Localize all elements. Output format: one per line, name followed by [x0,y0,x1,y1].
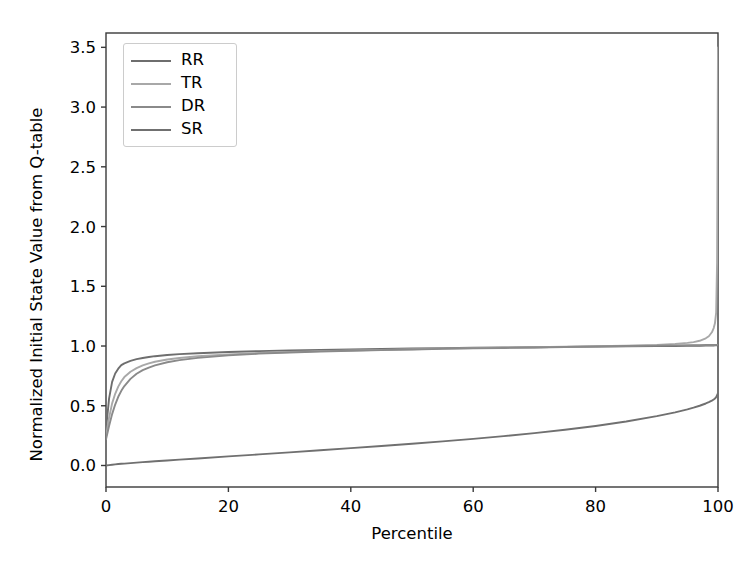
legend-label: TR [181,75,203,92]
legend-label: RR [181,52,204,69]
legend-item-rr[interactable]: RR [131,49,229,72]
y-tick-label: 1.0 [30,337,96,356]
legend-swatch-rr [131,60,171,62]
x-tick-label: 40 [340,497,361,516]
legend-item-dr[interactable]: DR [131,95,229,118]
legend-item-tr[interactable]: TR [131,72,229,95]
legend-item-sr[interactable]: SR [131,118,229,141]
series-line-dr [106,345,718,439]
y-tick-label: 0.5 [30,396,96,415]
x-tick-label: 100 [702,497,734,516]
y-tick-label: 2.0 [30,217,96,236]
legend-label: DR [181,98,205,115]
legend: RRTRDRSR [123,43,237,147]
legend-swatch-dr [131,106,171,108]
figure-canvas: Normalized Initial State Value from Q-ta… [0,0,753,569]
y-tick-label: 1.5 [30,277,96,296]
y-tick-label: 0.0 [30,456,96,475]
plot-area [0,0,753,569]
legend-label: SR [181,121,203,138]
legend-swatch-tr [131,83,171,85]
x-tick-label: 60 [463,497,484,516]
x-tick-label: 0 [101,497,112,516]
y-tick-label: 3.0 [30,98,96,117]
y-tick-label: 3.5 [30,38,96,57]
series-line-sr [106,393,718,465]
y-tick-label: 2.5 [30,157,96,176]
x-tick-label: 20 [218,497,239,516]
legend-swatch-sr [131,129,171,131]
x-tick-label: 80 [585,497,606,516]
